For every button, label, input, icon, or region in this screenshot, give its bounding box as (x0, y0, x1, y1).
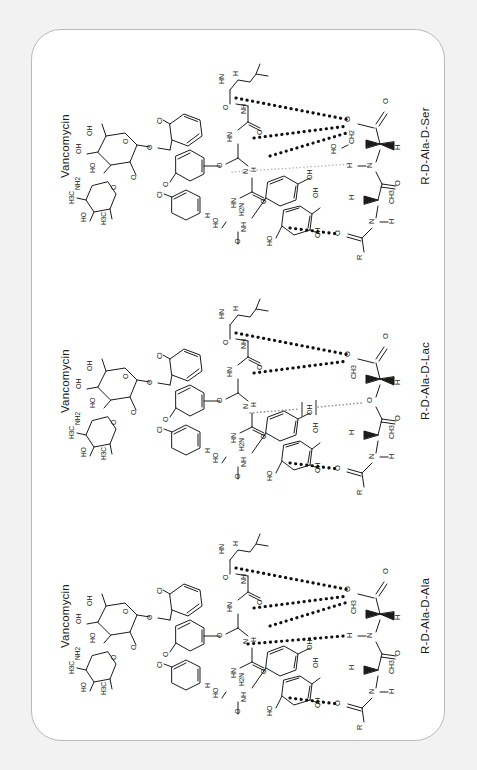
svg-text:OH: OH (312, 658, 319, 669)
figure-root: Vancomycin R-D-Ala-D-Ser OH OH HO O (0, 0, 477, 770)
svg-text:HN: HN (226, 602, 233, 612)
svg-text:OH: OH (312, 188, 319, 199)
svg-text:CH3: CH3 (388, 660, 395, 674)
svg-text:OH: OH (75, 614, 82, 625)
svg-text:O: O (162, 651, 169, 657)
svg-text:H3C: H3C (100, 447, 107, 460)
structure-drawing-ser: OH OH HO O O O (32, 32, 445, 269)
svg-text:HO: HO (212, 217, 219, 228)
svg-text:NH: NH (240, 339, 247, 349)
svg-text:R: R (355, 254, 364, 260)
svg-text:O: O (146, 379, 153, 385)
svg-text:NH: NH (240, 104, 247, 114)
svg-text:H2N: H2N (238, 203, 245, 216)
svg-text:HO: HO (266, 705, 273, 716)
svg-text:H: H (204, 683, 211, 688)
svg-text:H: H (393, 615, 402, 620)
svg-text:HO: HO (266, 470, 273, 481)
svg-text:O: O (130, 174, 137, 180)
svg-text:HO: HO (89, 162, 96, 173)
svg-text:OH: OH (312, 423, 319, 434)
svg-text:OH: OH (86, 596, 93, 607)
svg-text:O: O (365, 397, 374, 403)
figure-card: Vancomycin R-D-Ala-D-Ser OH OH HO O (31, 29, 445, 741)
svg-text:O: O (110, 654, 117, 660)
panel-d-ala-d-lac: Vancomycin R-D-Ala-D-Lac OH OH HO O O (32, 267, 445, 504)
svg-text:NH2: NH2 (74, 412, 81, 425)
svg-text:Cl: Cl (156, 426, 163, 433)
svg-text:OH: OH (306, 640, 313, 651)
svg-text:NH: NH (240, 692, 247, 702)
svg-text:CH3: CH3 (388, 190, 395, 204)
svg-text:H: H (250, 402, 257, 407)
svg-text:R: R (355, 724, 364, 730)
svg-text:H: H (232, 71, 239, 76)
svg-text:NH: NH (240, 222, 247, 232)
svg-text:NH: NH (240, 457, 247, 467)
svg-text:HO: HO (80, 447, 87, 457)
svg-text:Cl: Cl (156, 191, 163, 198)
svg-text:O: O (216, 397, 223, 403)
svg-text:O: O (122, 138, 129, 144)
svg-text:HO: HO (212, 687, 219, 698)
svg-text:H2N: H2N (238, 673, 245, 686)
svg-text:O: O (222, 574, 229, 580)
svg-text:HN: HN (230, 433, 237, 443)
svg-text:HO: HO (330, 143, 337, 154)
svg-text:Cl: Cl (156, 587, 163, 594)
svg-text:H: H (393, 145, 402, 150)
svg-text:H: H (387, 454, 396, 459)
svg-text:OH: OH (306, 405, 313, 416)
svg-text:H: H (393, 380, 402, 385)
svg-text:O: O (222, 104, 229, 110)
svg-text:HN: HN (218, 74, 225, 84)
svg-text:OH: OH (86, 126, 93, 137)
svg-text:O: O (130, 409, 137, 415)
svg-text:O: O (256, 129, 263, 135)
svg-text:H: H (347, 430, 356, 435)
svg-text:NH2: NH2 (74, 647, 81, 660)
svg-text:O: O (130, 644, 137, 650)
svg-text:N: N (365, 163, 374, 168)
svg-text:O: O (122, 373, 129, 379)
svg-text:Cl: Cl (156, 661, 163, 668)
svg-text:H: H (204, 213, 211, 218)
svg-text:O: O (256, 599, 263, 605)
svg-text:HN: HN (218, 309, 225, 319)
svg-text:H: H (347, 665, 356, 670)
svg-text:HO: HO (80, 212, 87, 222)
structure-drawing-ala: OH OH HO O O O NH2 H3C (32, 502, 445, 739)
structure-drawing-lac: OH OH HO O O O NH2 H3C (32, 267, 445, 504)
svg-text:HO: HO (89, 632, 96, 643)
svg-text:OH: OH (306, 170, 313, 181)
svg-text:O: O (381, 333, 390, 339)
svg-text:NH: NH (240, 574, 247, 584)
panel-d-ala-d-ala: Vancomycin R-D-Ala-D-Ala OH OH HO O O (32, 502, 445, 739)
panel-d-ala-d-ser: Vancomycin R-D-Ala-D-Ser OH OH HO O (32, 32, 445, 269)
svg-text:N: N (367, 219, 376, 224)
svg-text:OH: OH (75, 379, 82, 390)
svg-text:H3C: H3C (68, 191, 75, 204)
svg-text:HO: HO (80, 682, 87, 692)
svg-text:N: N (242, 404, 249, 409)
svg-text:O: O (146, 144, 153, 150)
svg-text:R: R (355, 489, 364, 495)
svg-text:O: O (381, 98, 390, 104)
svg-text:H: H (232, 306, 239, 311)
svg-text:OH: OH (75, 144, 82, 155)
svg-text:H3C: H3C (68, 426, 75, 439)
svg-text:NH2: NH2 (74, 177, 81, 190)
svg-text:HN: HN (226, 367, 233, 377)
svg-text:Cl: Cl (156, 352, 163, 359)
svg-text:O: O (393, 180, 402, 186)
svg-text:HN: HN (218, 544, 225, 554)
svg-text:CH3: CH3 (388, 425, 395, 439)
svg-text:HN: HN (230, 668, 237, 678)
svg-text:H3C: H3C (68, 661, 75, 674)
svg-text:N: N (367, 454, 376, 459)
svg-text:O: O (222, 339, 229, 345)
svg-text:O: O (110, 419, 117, 425)
svg-text:H2N: H2N (238, 438, 245, 451)
svg-text:HO: HO (212, 452, 219, 463)
svg-text:HO: HO (266, 235, 273, 246)
